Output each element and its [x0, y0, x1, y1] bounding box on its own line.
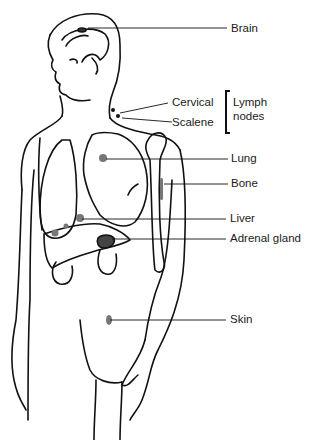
leader-scalene: [122, 118, 172, 122]
body-figure: [0, 0, 311, 440]
label-lung: Lung: [231, 152, 257, 165]
leader-cervical: [120, 103, 168, 113]
lymph-nodes-bracket: [225, 90, 230, 134]
label-cervical: Cervical: [172, 96, 214, 109]
label-scalene: Scalene: [172, 116, 214, 129]
label-adrenal-gland: Adrenal gland: [230, 232, 301, 245]
label-lymph-nodes-line1: Lymph: [233, 96, 267, 109]
label-bone: Bone: [231, 177, 258, 190]
label-brain: Brain: [231, 22, 258, 35]
label-skin: Skin: [230, 313, 252, 326]
label-liver: Liver: [230, 212, 255, 225]
label-lymph-nodes-line2: nodes: [233, 110, 264, 123]
head-outline: [48, 14, 120, 118]
